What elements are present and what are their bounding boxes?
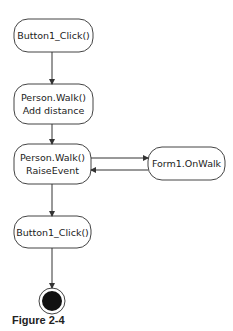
final-state-node xyxy=(39,288,65,314)
node-label: Button1_Click() xyxy=(16,227,89,238)
node-button1-click-start: Button1_Click() xyxy=(14,19,93,52)
node-label: RaiseEvent xyxy=(26,165,79,176)
node-label: Form1.OnWalk xyxy=(152,158,222,169)
figure-caption: Figure 2-4 xyxy=(12,314,65,326)
node-person-walk-raise-event: Person.Walk() RaiseEvent xyxy=(14,144,91,184)
node-label: Person.Walk() xyxy=(20,152,85,163)
node-label: Add distance xyxy=(23,105,85,116)
node-button1-click-end: Button1_Click() xyxy=(14,216,91,248)
node-form1-onwalk: Form1.OnWalk xyxy=(148,147,225,180)
node-label: Button1_Click() xyxy=(17,30,90,41)
flow-diagram: Button1_Click() Person.Walk() Add distan… xyxy=(0,0,233,331)
node-label: Person.Walk() xyxy=(21,92,86,103)
node-person-walk-add-distance: Person.Walk() Add distance xyxy=(14,84,93,124)
